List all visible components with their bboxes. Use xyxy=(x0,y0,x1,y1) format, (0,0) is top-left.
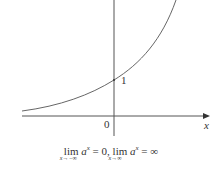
limit-pos-inf: limx→∞ xyxy=(113,145,128,157)
y-intercept-label: 1 xyxy=(121,75,127,86)
limit-value: = 0, xyxy=(90,145,110,157)
exponential-curve xyxy=(22,0,176,111)
limit-neg-inf: limx→−∞ xyxy=(64,145,79,157)
y-intercept-point xyxy=(113,79,115,81)
x-axis-label: x xyxy=(204,120,209,131)
lim-subscript: x→−∞ xyxy=(60,155,77,161)
limit-caption: limx→−∞ ax = 0, limx→∞ ax = ∞ xyxy=(0,144,222,157)
lim-subscript: x→∞ xyxy=(109,155,122,161)
origin-label: 0 xyxy=(104,119,110,130)
limit-value: = ∞ xyxy=(139,145,159,157)
